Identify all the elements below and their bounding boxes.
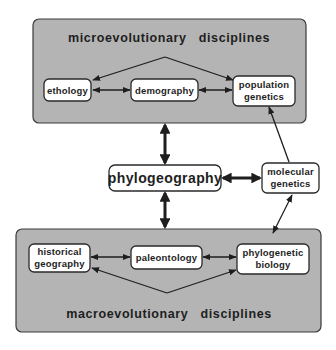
microevolutionary-panel: microevolutionary disciplines [33,19,306,123]
node-historical-geography: historical geography [29,244,90,272]
historical-geography-line1: historical [37,246,81,257]
historical-geography-line2: geography [34,258,85,269]
population-genetics-line2: genetics [244,91,284,102]
node-population-genetics: population genetics [233,76,295,106]
ethology-label: ethology [47,85,89,96]
phylogeography-diagram: microevolutionary disciplines macroevolu… [0,0,336,350]
phylogenetic-biology-line2: biology [255,259,291,270]
node-demography: demography [131,79,198,101]
phylogenetic-biology-line1: phylogenetic [243,247,304,258]
molecular-genetics-line1: molecular [267,166,314,177]
paleontology-label: paleontology [136,252,198,263]
node-phylogenetic-biology: phylogenetic biology [237,244,309,274]
arrow-molecular-phylogenetic [273,195,292,233]
macro-panel-title: macroevolutionary disciplines [66,307,271,321]
node-phylogeography: phylogeography [108,165,223,191]
demography-label: demography [135,85,195,96]
micro-panel-title: microevolutionary disciplines [68,31,270,45]
node-paleontology: paleontology [131,246,202,269]
population-genetics-line1: population [239,79,290,90]
node-ethology: ethology [44,79,91,101]
node-molecular-genetics: molecular genetics [262,163,319,193]
phylogeography-label: phylogeography [108,170,223,186]
molecular-genetics-line2: genetics [270,178,310,189]
